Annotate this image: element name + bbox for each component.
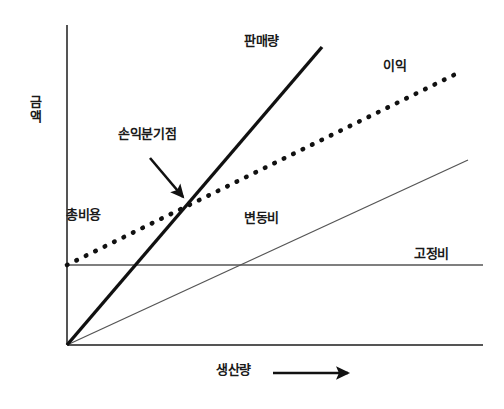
x-axis-title: 생산량 xyxy=(216,363,251,378)
chart-canvas xyxy=(0,0,504,409)
y-axis-title: 금 액 xyxy=(26,95,46,124)
series-label-fixed-cost: 고정비 xyxy=(414,247,449,262)
series-label-variable-cost: 변동비 xyxy=(244,211,279,226)
series-label-sales: 판매량 xyxy=(244,34,279,49)
total-cost-dotted-line xyxy=(67,72,460,265)
break-even-chart-figure: 판매량 이익 손익분기점 총비용 변동비 고정비 금 액 생산량 xyxy=(0,0,504,409)
break-even-pointer-arrow xyxy=(150,158,183,197)
y-axis-title-line-2: 액 xyxy=(26,110,46,125)
series-label-total-cost: 총비용 xyxy=(66,208,101,223)
series-label-profit: 이익 xyxy=(383,59,406,74)
sales-revenue-line xyxy=(67,47,322,345)
y-axis-title-line-1: 금 xyxy=(26,95,46,110)
variable-cost-line xyxy=(67,160,468,345)
annotation-label-break-even-point: 손익분기점 xyxy=(118,127,177,142)
